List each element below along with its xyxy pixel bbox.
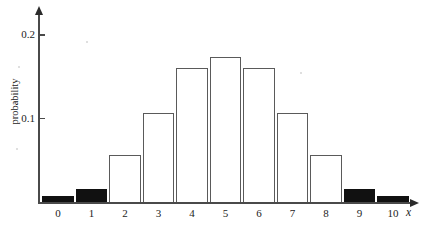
x-tick-label: 6 (244, 207, 274, 219)
paper-speckle (16, 148, 18, 150)
x-tick-label: 0 (43, 207, 73, 219)
histogram-bar (176, 68, 207, 203)
histogram-bar (42, 196, 73, 203)
x-tick-label: 1 (77, 207, 107, 219)
histogram-bar (310, 155, 341, 203)
x-tick-label: 9 (344, 207, 374, 219)
histogram-bar (243, 68, 274, 203)
x-tick-label: 10 (378, 207, 408, 219)
histogram-bar (377, 196, 408, 203)
y-tick-label: 0.1 (9, 112, 35, 124)
histogram-bar (210, 57, 241, 203)
histogram-bar (109, 155, 140, 203)
x-tick-label: 5 (211, 207, 241, 219)
histogram-bar (277, 113, 308, 203)
x-tick-label: 3 (144, 207, 174, 219)
probability-histogram-figure: probability 0.10.2 012345678910 x (0, 0, 428, 231)
histogram-bar (143, 113, 174, 203)
y-axis-title: probability (9, 62, 20, 142)
x-axis-title: x (406, 206, 411, 218)
x-tick-label: 4 (177, 207, 207, 219)
histogram-bar (76, 189, 107, 202)
x-axis-line (38, 202, 413, 204)
histogram-bar (344, 189, 375, 202)
y-tick-label: 0.2 (9, 28, 35, 40)
plot-area (38, 14, 413, 202)
x-tick-label: 7 (277, 207, 307, 219)
x-tick-label: 8 (311, 207, 341, 219)
x-tick-label: 2 (110, 207, 140, 219)
